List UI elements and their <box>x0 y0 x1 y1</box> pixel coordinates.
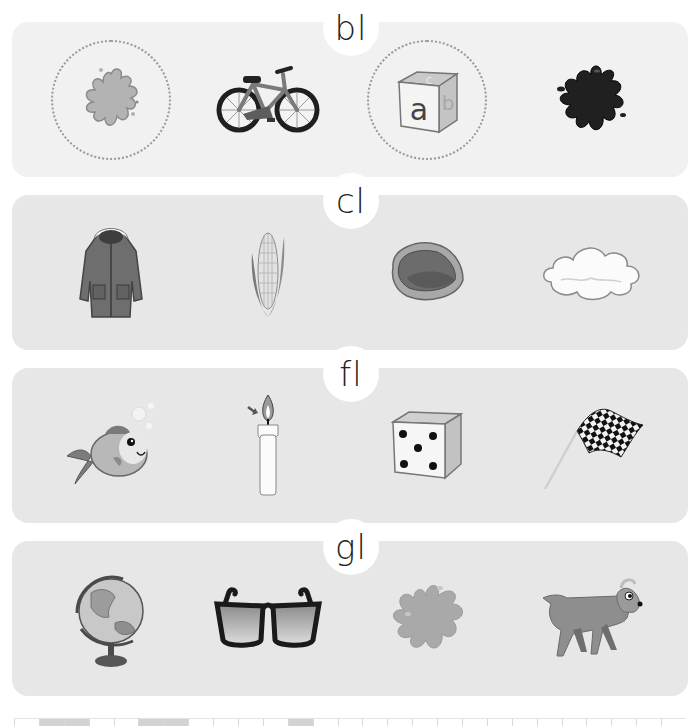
picture-corn[interactable] <box>193 213 343 333</box>
strip-cell <box>14 718 39 726</box>
fish-icon <box>61 396 161 496</box>
strip-cell <box>437 718 462 726</box>
strip-cell <box>487 718 512 726</box>
strip-cell <box>661 718 686 726</box>
goat-icon <box>537 574 647 664</box>
strip-cell <box>512 718 537 726</box>
circled-answer-ring <box>367 40 487 160</box>
strip-cell <box>537 718 562 726</box>
picture-cloud[interactable] <box>517 213 667 333</box>
corn-icon <box>248 223 288 323</box>
strip-cell <box>611 718 636 726</box>
bottom-cell-strip <box>14 718 686 726</box>
strip-cell <box>288 718 313 726</box>
candle-flame-icon <box>238 391 298 501</box>
picture-glob[interactable] <box>352 559 502 679</box>
picture-splat[interactable] <box>36 40 186 160</box>
picture-checkered-flag[interactable] <box>517 386 667 506</box>
picture-black-splat[interactable] <box>517 40 667 160</box>
strip-cell <box>213 718 238 726</box>
strip-cell <box>562 718 587 726</box>
picture-fish[interactable] <box>36 386 186 506</box>
strip-cell <box>462 718 487 726</box>
picture-globe[interactable] <box>36 559 186 679</box>
circled-answer-ring <box>51 40 171 160</box>
strip-cell <box>64 718 89 726</box>
strip-cell <box>188 718 213 726</box>
checkered-flag-icon <box>537 401 647 491</box>
strip-cell <box>362 718 387 726</box>
strip-cell <box>39 718 64 726</box>
strip-cell <box>387 718 412 726</box>
blend-row-gl: gl <box>12 541 688 696</box>
strip-cell <box>338 718 363 726</box>
picture-coat[interactable] <box>36 213 186 333</box>
strip-cell <box>138 718 163 726</box>
picture-candle[interactable] <box>193 386 343 506</box>
glob-splat-icon <box>382 574 472 664</box>
strip-cell <box>114 718 139 726</box>
picture-sunglasses[interactable] <box>193 559 343 679</box>
picture-clam[interactable] <box>352 213 502 333</box>
picture-letter-block[interactable]: a b c <box>352 40 502 160</box>
strip-cell <box>263 718 288 726</box>
blend-row-fl: fl <box>12 368 688 523</box>
dice-icon <box>387 406 467 486</box>
strip-cell <box>636 718 661 726</box>
picture-dice[interactable] <box>352 386 502 506</box>
clam-icon <box>387 238 467 308</box>
strip-cell <box>238 718 263 726</box>
picture-bicycle[interactable] <box>193 40 343 160</box>
coat-icon <box>76 223 146 323</box>
bicycle-icon <box>213 60 323 140</box>
cloud-icon <box>537 238 647 308</box>
sunglasses-icon <box>213 584 323 654</box>
picture-goat[interactable] <box>517 559 667 679</box>
blend-row-cl: cl <box>12 195 688 350</box>
strip-cell <box>89 718 114 726</box>
globe-icon <box>71 569 151 669</box>
strip-cell <box>313 718 338 726</box>
strip-cell <box>412 718 437 726</box>
strip-cell <box>163 718 188 726</box>
strip-cell <box>586 718 611 726</box>
black-splat-icon <box>547 55 637 145</box>
blend-row-bl: bl <box>12 22 688 177</box>
